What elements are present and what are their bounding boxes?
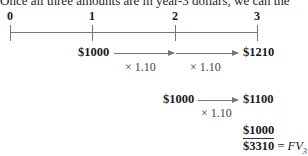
intro-text: Once all three amounts are in year-3 dol… <box>0 0 290 9</box>
row1-multiplier-1: × 1.10 <box>125 60 156 75</box>
row2-multiplier: × 1.10 <box>201 106 232 121</box>
tick-label-1: 1 <box>89 9 95 24</box>
tick-mark-0 <box>10 25 11 41</box>
tick-mark-1 <box>92 25 93 41</box>
fv-subscript: 3 <box>303 147 307 156</box>
row1-start-amount: $1000 <box>78 45 109 60</box>
row2-arrow <box>198 100 238 101</box>
row1-arrow-1 <box>114 53 174 54</box>
sum-equals: = <box>277 139 284 153</box>
sum-total: $3310 <box>243 139 274 153</box>
tick-mark-2 <box>175 25 176 41</box>
tick-label-0: 0 <box>7 9 13 24</box>
fv-text: FV <box>288 139 303 153</box>
tick-label-2: 2 <box>172 9 178 24</box>
tick-label-3: 3 <box>254 9 260 24</box>
row1-end-amount: $1210 <box>243 45 274 60</box>
row2-start-amount: $1000 <box>163 92 194 107</box>
row2-end-amount: $1100 <box>243 92 274 107</box>
row1-multiplier-2: × 1.10 <box>190 60 221 75</box>
fv-label: FV3 <box>288 139 307 153</box>
row3-amount: $1000 <box>243 123 274 139</box>
timeline-axis <box>10 32 257 33</box>
row1-arrow-2 <box>176 53 238 54</box>
tick-mark-3 <box>257 25 258 41</box>
sum-line: $3310 = FV3 <box>243 139 307 156</box>
